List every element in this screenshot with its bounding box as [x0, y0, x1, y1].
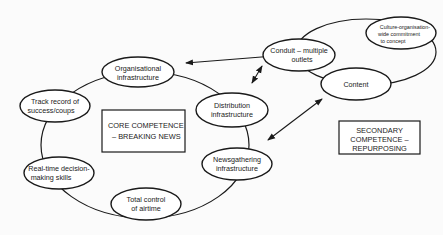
node-organisational-infrastructure: Organisational infrastructure — [102, 57, 174, 87]
node-culture-line3: to concept — [381, 38, 406, 44]
node-distribution-infrastructure: Distribution infrastructure — [196, 93, 268, 127]
secondary-label-line2: COMPETENCE – — [350, 135, 409, 144]
core-label-line2: – BREAKING NEWS — [112, 132, 181, 141]
node-distribution-line1: Distribution — [214, 101, 250, 110]
node-content-label: Content — [343, 80, 368, 89]
node-real-time-decision-making: Real-time decision- making skills — [24, 157, 94, 189]
node-newsgathering-infrastructure: Newsgathering infrastructure — [202, 148, 272, 180]
core-competence-box — [102, 110, 185, 152]
node-culture-organisation-commitment: Culture-organisation- wide commitment to… — [366, 17, 436, 49]
node-conduit-line1: Conduit – multiple — [270, 46, 328, 55]
node-airtime-line1: Total control — [127, 195, 166, 204]
secondary-label-line3: REPURPOSING — [352, 144, 407, 153]
node-organisational-line1: Organisational — [115, 64, 162, 73]
node-newsgathering-line1: Newsgathering — [213, 155, 261, 164]
node-conduit-multiple-outlets: Conduit – multiple outlets — [263, 39, 335, 71]
node-distribution-line2: infrastructure — [211, 110, 253, 119]
arrow-newsgathering-content — [268, 99, 322, 140]
node-newsgathering-line2: infrastructure — [216, 164, 258, 173]
node-conduit-line2: outlets — [291, 55, 313, 64]
node-airtime-line2: of airtime — [131, 204, 161, 213]
node-track-record: Track record of success/coups — [20, 90, 90, 122]
node-track-line1: Track record of — [31, 97, 79, 106]
core-label-line1: CORE COMPETENCE — [108, 121, 184, 130]
arrow-distribution-conduit — [252, 66, 262, 83]
node-culture-line1: Culture-organisation- — [380, 24, 431, 30]
secondary-label-line1: SECONDARY — [356, 126, 403, 135]
node-organisational-line2: infrastructure — [117, 73, 159, 82]
node-total-control-of-airtime: Total control of airtime — [111, 188, 181, 220]
node-content: Content — [321, 68, 391, 100]
node-culture-line2: wide commitment — [377, 31, 420, 37]
node-decision-line2: making skills — [31, 173, 72, 182]
competence-diagram: CORE COMPETENCE – BREAKING NEWS SECONDAR… — [0, 0, 443, 235]
node-decision-line1: Real-time decision- — [28, 164, 90, 173]
node-track-line2: success/coups — [27, 106, 75, 115]
arrow-organisational-conduit — [186, 56, 274, 63]
